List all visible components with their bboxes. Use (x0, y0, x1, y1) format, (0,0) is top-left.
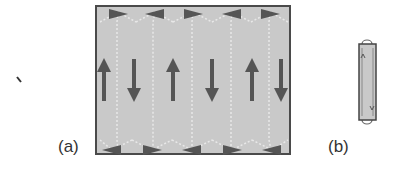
panel-b-label: (b) (328, 137, 349, 157)
panel-a-label: (a) (58, 137, 79, 157)
panel-a (96, 6, 290, 155)
stray-mark (17, 77, 21, 82)
panel-b (359, 40, 376, 124)
panel-a-frame (96, 6, 290, 154)
